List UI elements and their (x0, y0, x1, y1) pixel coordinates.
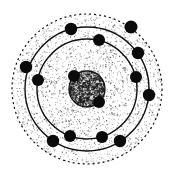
electron-5-shell-1 (32, 74, 44, 86)
electron-12-shell-3 (125, 21, 138, 34)
electron-7-shell-2 (132, 47, 144, 59)
electron-2-shell-1 (130, 71, 142, 83)
electron-1-shell-1 (93, 34, 105, 46)
electron-10-shell-2 (47, 135, 59, 147)
atom-diagram-svg (0, 0, 175, 178)
electron-11-shell-2 (20, 61, 32, 73)
electron-9-shell-2 (114, 135, 126, 147)
electron-3-shell-1 (96, 131, 108, 143)
electron-8-shell-2 (143, 89, 155, 101)
electron-6-shell-2 (65, 23, 77, 35)
nucleon-blob-lower-right (93, 96, 105, 108)
electron-4-shell-1 (64, 130, 76, 142)
atom-diagram-figure (0, 0, 175, 178)
nucleon-blob-upper-left (68, 70, 80, 82)
